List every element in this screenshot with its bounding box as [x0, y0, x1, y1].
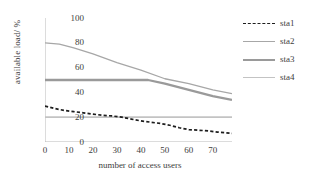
y-tick-label: 20: [58, 113, 84, 122]
y-tick-label: 80: [58, 38, 84, 47]
x-tick-label: 60: [177, 146, 201, 155]
x-tick-label: 30: [105, 146, 129, 155]
chart-figure: available load/ % 020406080100 010203040…: [0, 0, 319, 178]
y-axis-title: available load/ %: [12, 0, 22, 107]
legend-item-sta3[interactable]: sta3: [243, 50, 317, 68]
legend-item-sta4[interactable]: sta4: [243, 68, 317, 86]
legend-line-sta2-icon: [243, 37, 275, 45]
plot-area: [45, 18, 232, 142]
legend-label-sta4: sta4: [275, 72, 295, 82]
x-tick-label: 40: [129, 146, 153, 155]
x-tick-label: 50: [153, 146, 177, 155]
y-tick-label: 100: [58, 14, 84, 23]
legend-label-sta2: sta2: [275, 36, 295, 46]
chart-legend: sta1 sta2 sta3 sta4: [243, 14, 317, 86]
legend-label-sta3: sta3: [275, 54, 295, 64]
x-tick-label: 20: [81, 146, 105, 155]
y-tick-label: 40: [58, 88, 84, 97]
y-tick-label: 60: [58, 63, 84, 72]
x-tick-label: 70: [201, 146, 225, 155]
legend-line-sta3-icon: [243, 55, 275, 63]
x-axis-title: number of access users: [40, 160, 240, 170]
plot-svg: [45, 18, 232, 142]
legend-item-sta2[interactable]: sta2: [243, 32, 317, 50]
legend-item-sta1[interactable]: sta1: [243, 14, 317, 32]
legend-line-sta1-icon: [243, 19, 275, 27]
legend-label-sta1: sta1: [275, 18, 295, 28]
x-tick-label: 0: [33, 146, 57, 155]
legend-line-sta4-icon: [243, 73, 275, 81]
x-tick-label: 10: [57, 146, 81, 155]
